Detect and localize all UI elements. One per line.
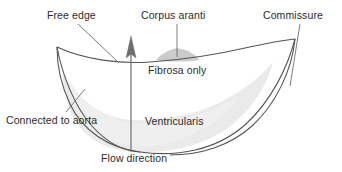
label-ventricularis: Ventricularis — [145, 115, 204, 127]
leaflet-diagram — [0, 0, 342, 172]
diagram-canvas: Free edge Corpus aranti Commissure Fibro… — [0, 0, 342, 172]
label-connected-to-aorta: Connected to aorta — [6, 114, 97, 126]
commissure-leader-line — [290, 24, 300, 86]
label-corpus-aranti: Corpus aranti — [141, 9, 205, 21]
label-fibrosa-only: Fibrosa only — [148, 64, 206, 76]
label-flow-direction: Flow direction — [101, 152, 167, 164]
label-commissure: Commissure — [263, 9, 323, 21]
label-free-edge: Free edge — [47, 9, 96, 21]
